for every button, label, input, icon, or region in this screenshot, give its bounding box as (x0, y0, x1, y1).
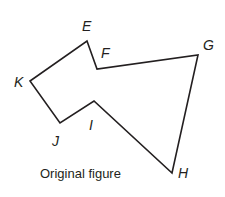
vertex-label-g: G (203, 37, 214, 53)
vertex-label-e: E (82, 18, 92, 34)
figure-caption: Original figure (40, 166, 121, 181)
vertex-label-f: F (101, 45, 111, 61)
polygon-EFGHIJK (30, 41, 198, 173)
vertex-label-i: I (89, 117, 93, 133)
vertex-label-j: J (51, 133, 60, 149)
polygon-diagram: E F G H I J K Original figure (0, 0, 225, 197)
vertex-label-h: H (178, 165, 189, 181)
vertex-label-k: K (14, 74, 24, 90)
